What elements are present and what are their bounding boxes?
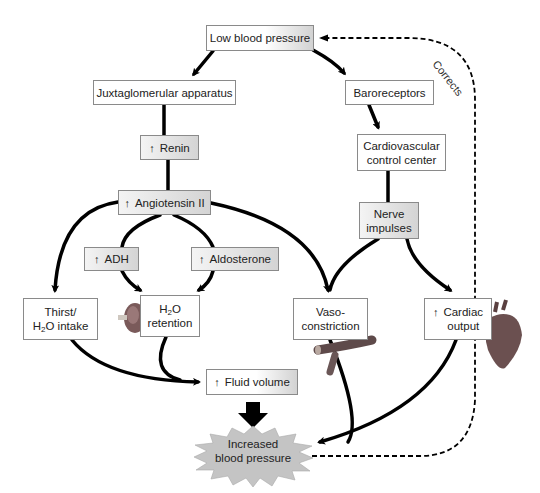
increase-arrow-icon: ↑ [199, 252, 205, 266]
increase-arrow-icon: ↑ [149, 141, 155, 155]
node-nerve-impulses: Nerve impulses [359, 202, 419, 239]
node-vasoconstriction: Vaso- constriction [293, 298, 368, 340]
node-label-line1: Vaso- [316, 305, 345, 319]
node-adh: ↑ ADH [84, 247, 139, 271]
node-cardiac-output: ↑ Cardiac output [424, 298, 492, 340]
node-label-line1: Thirst/ [45, 305, 77, 319]
blood-vessel-icon [315, 340, 372, 372]
node-low-blood-pressure: Low blood pressure [206, 25, 314, 51]
edge-nerve-vaso [330, 239, 378, 290]
edge-angio-aldo [174, 215, 213, 247]
node-label-line2: H2O intake [33, 319, 89, 333]
node-label: Angiotensin II [135, 196, 205, 210]
node-angiotensin-ii: ↑ Angiotensin II [118, 190, 211, 215]
edge-aldo-h2o [199, 271, 213, 290]
edge-h2o-fluid [160, 337, 180, 380]
edge-baro-cv [369, 105, 378, 127]
increase-arrow-icon: ↑ [214, 375, 220, 389]
node-label-line1: Increased [195, 437, 311, 451]
node-thirst-h2o-intake: Thirst/ H2O intake [23, 298, 98, 340]
edge-lowbp-baro [313, 50, 344, 73]
node-label-line1: H2O [159, 302, 181, 316]
node-label: Cardiac output [443, 305, 483, 333]
node-label: ADH [105, 252, 129, 266]
edge-nerve-cardiac [407, 239, 450, 290]
edge-angio-thirst [55, 202, 118, 290]
node-renin: ↑ Renin [140, 135, 199, 160]
edge-angio-adh [122, 215, 160, 247]
node-label-line2: constriction [301, 319, 359, 333]
node-label-line2: impulses [366, 221, 411, 235]
node-label-line2: control center [367, 153, 437, 167]
node-label: Low blood pressure [210, 31, 310, 45]
node-aldosterone: ↑ Aldosterone [191, 247, 279, 271]
node-h2o-retention: H2O retention [140, 295, 200, 337]
node-label: Fluid volume [225, 375, 290, 389]
node-juxtaglomerular-apparatus: Juxtaglomerular apparatus [93, 80, 236, 105]
edge-lowbp-jga [194, 51, 213, 74]
node-label: Baroreceptors [353, 86, 425, 100]
node-label: Aldosterone [210, 252, 271, 266]
increase-arrow-icon: ↑ [433, 305, 439, 319]
node-label-line1: Nerve [374, 207, 405, 221]
edge-thirst-fluid [72, 340, 198, 382]
node-cardiovascular-control-center: Cardiovascular control center [357, 134, 446, 171]
edge-adh-h2o [122, 271, 140, 290]
increase-arrow-icon: ↑ [124, 196, 130, 210]
increase-arrow-icon: ↑ [94, 252, 100, 266]
node-increased-blood-pressure: Increased blood pressure [195, 437, 311, 465]
node-label: Renin [160, 141, 190, 155]
node-fluid-volume: ↑ Fluid volume [206, 369, 298, 395]
edge-fluid-increased [238, 402, 268, 428]
node-label: Juxtaglomerular apparatus [96, 86, 232, 100]
edge-cardiac-increased [320, 340, 456, 442]
node-label-line2: retention [148, 316, 193, 330]
node-baroreceptors: Baroreceptors [345, 80, 434, 105]
node-label-line2: blood pressure [195, 451, 311, 465]
node-label-line1: Cardiovascular [363, 139, 440, 153]
